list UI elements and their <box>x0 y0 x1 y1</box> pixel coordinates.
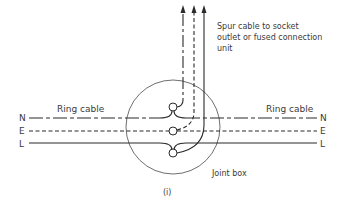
ring-cable-label-left: Ring cable <box>57 104 105 114</box>
label-e-left: E <box>19 126 25 136</box>
figure-caption: (i) <box>163 188 171 197</box>
ring-cable-label-right: Ring cable <box>266 104 314 114</box>
spur-earth <box>177 12 194 130</box>
joint-box-label: Joint box <box>211 169 247 178</box>
label-l-left: L <box>19 139 24 149</box>
label-n-right: N <box>320 113 327 123</box>
label-n-left: N <box>19 113 26 123</box>
arrow-up-icon <box>181 5 186 13</box>
spur-neutral <box>177 12 183 107</box>
spur-label-line1: Spur cable to socket <box>217 22 299 31</box>
spur-line <box>177 12 204 153</box>
arrow-up-icon <box>192 5 197 13</box>
arrow-up-icon <box>202 5 207 13</box>
spur-label-line2: outlet or fused connection <box>217 33 322 42</box>
terminal-earth <box>169 127 177 135</box>
label-l-right: L <box>320 139 325 149</box>
joint-box-wiring-diagram: N E L N E L Ring cable Ring cable Spur c… <box>0 0 345 208</box>
label-e-right: E <box>320 126 326 136</box>
terminal-neutral <box>169 103 177 111</box>
spur-label-line3: unit <box>217 44 233 53</box>
terminal-line <box>169 149 177 157</box>
